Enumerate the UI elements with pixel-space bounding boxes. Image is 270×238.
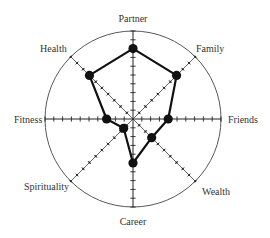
axis-tick-dot (194, 56, 196, 58)
axis-tick-dot (70, 56, 72, 58)
axis-tick-dot (88, 162, 90, 164)
axis-tick-dot (76, 174, 78, 176)
axis-tick-dot (113, 137, 115, 139)
axis-label-career: Career (120, 216, 147, 227)
axis-tick-dot (82, 68, 84, 70)
axis-tick-dot (188, 174, 190, 176)
axis-label-family: Family (196, 43, 224, 54)
axis-label-friends: Friends (228, 114, 258, 125)
axis-label-spirituality: Spirituality (24, 181, 69, 192)
axis-tick-dot (144, 106, 146, 108)
axis-tick-dot (113, 99, 115, 101)
axis-tick-dot (120, 106, 122, 108)
axis-tick-dot (169, 81, 171, 83)
axis-tick-dot (82, 168, 84, 170)
axis-labels: PartnerFamilyFriendsWealthCareerSpiritua… (14, 13, 258, 227)
axis-tick-dot (151, 99, 153, 101)
data-point-fitness (102, 114, 111, 123)
axis-tick-dot (95, 155, 97, 157)
axis-tick-dot (101, 149, 103, 151)
axis-tick-dot (138, 124, 140, 126)
axis-tick-dot (182, 68, 184, 70)
data-point-spirituality (119, 124, 128, 133)
axis-tick-dot (157, 143, 159, 145)
data-point-career (128, 158, 137, 167)
axis-tick-dot (163, 87, 165, 89)
chart-axes (45, 31, 221, 207)
axis-tick-dot (107, 93, 109, 95)
data-point-health (85, 71, 94, 80)
axis-tick-dot (126, 112, 128, 114)
data-point-wealth (147, 133, 156, 142)
data-point-friends (164, 114, 173, 123)
axis-tick-dot (95, 81, 97, 83)
axis-label-fitness: Fitness (14, 114, 42, 125)
axis-tick-dot (169, 155, 171, 157)
axis-tick-dot (194, 180, 196, 182)
axis-tick-dot (70, 180, 72, 182)
axis-tick-dot (101, 87, 103, 89)
axis-tick-dot (182, 168, 184, 170)
radar-chart: PartnerFamilyFriendsWealthCareerSpiritua… (0, 0, 270, 238)
axis-tick-dot (157, 93, 159, 95)
axis-tick-dot (188, 62, 190, 64)
axis-tick-dot (176, 162, 178, 164)
data-point-partner (128, 44, 137, 53)
data-point-family (172, 71, 181, 80)
axis-tick-dot (107, 143, 109, 145)
axis-tick-dot (138, 112, 140, 114)
axis-label-health: Health (40, 43, 67, 54)
axis-label-wealth: Wealth (202, 186, 230, 197)
axis-tick-dot (144, 130, 146, 132)
axis-tick-dot (76, 62, 78, 64)
axis-tick-dot (163, 149, 165, 151)
axis-label-partner: Partner (119, 13, 149, 24)
